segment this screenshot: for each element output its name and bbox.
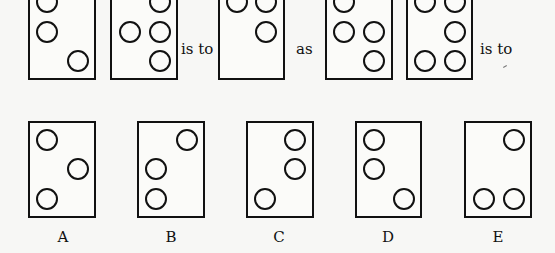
circle	[444, 50, 466, 72]
circle	[226, 0, 248, 13]
circle	[149, 0, 171, 13]
circle	[36, 21, 58, 43]
option-d-figure[interactable]	[355, 121, 422, 218]
circle	[67, 50, 89, 72]
figure-2	[110, 0, 178, 80]
circle	[145, 158, 167, 180]
circle	[444, 21, 466, 43]
option-d-label[interactable]: D	[378, 229, 398, 245]
circle	[363, 129, 385, 151]
circle	[503, 188, 525, 210]
circle	[149, 21, 171, 43]
circle	[363, 158, 385, 180]
option-a-label[interactable]: A	[53, 229, 73, 245]
circle	[145, 188, 167, 210]
connector-as: as	[296, 41, 313, 57]
figure-5	[406, 0, 473, 80]
option-b-label[interactable]: B	[161, 229, 181, 245]
circle	[503, 129, 525, 151]
circle	[36, 0, 58, 13]
connector-is-to-1: is to	[181, 41, 213, 57]
circle	[36, 188, 58, 210]
circle	[149, 50, 171, 72]
option-a-figure[interactable]	[28, 121, 96, 218]
circle	[444, 0, 466, 13]
circle	[473, 188, 495, 210]
option-c-label[interactable]: C	[269, 229, 289, 245]
circle	[284, 129, 306, 151]
option-e-figure[interactable]	[464, 121, 532, 218]
circle	[176, 129, 198, 151]
option-c-figure[interactable]	[246, 121, 314, 218]
circle	[414, 0, 436, 13]
circle	[284, 158, 306, 180]
circle	[67, 158, 89, 180]
circle	[414, 50, 436, 72]
circle	[254, 188, 276, 210]
figure-1	[28, 0, 96, 80]
figure-3	[218, 0, 285, 80]
circle	[363, 21, 385, 43]
circle	[255, 21, 277, 43]
circle	[36, 129, 58, 151]
connector-is-to-2: is to	[480, 41, 512, 57]
circle	[333, 21, 355, 43]
stray-mark	[503, 65, 507, 68]
circle	[333, 0, 355, 13]
option-b-figure[interactable]	[137, 121, 205, 218]
circle	[363, 50, 385, 72]
circle	[255, 0, 277, 13]
circle	[119, 21, 141, 43]
circle	[393, 188, 415, 210]
option-e-label[interactable]: E	[488, 229, 508, 245]
figure-4	[325, 0, 393, 80]
